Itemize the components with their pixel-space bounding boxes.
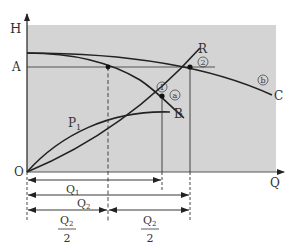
half-q2-left-denominator: 2 xyxy=(64,232,71,245)
y-axis-label: H xyxy=(10,21,21,36)
operating-point-2 xyxy=(187,64,192,69)
power-curve-end-label: B xyxy=(174,107,183,121)
half-q2-left-fraction: Q2 2 xyxy=(58,214,76,245)
operating-point-1 xyxy=(159,93,164,98)
x-axis-label: Q xyxy=(270,176,280,190)
half-q2-right-denominator: 2 xyxy=(147,232,154,245)
level-a-label: A xyxy=(11,60,21,74)
curve-b-mark: b xyxy=(260,76,265,85)
curve-a-mark: a xyxy=(173,91,178,100)
origin-label: O xyxy=(14,165,24,179)
plot-area xyxy=(27,25,276,172)
single-pump-operating-point xyxy=(106,65,111,70)
point-2-label: 2 xyxy=(200,58,205,67)
curve-c-label: C xyxy=(274,89,283,103)
half-q2-left-numerator: Q2 xyxy=(60,214,74,228)
half-q2-right-numerator: Q2 xyxy=(143,214,157,228)
pump-performance-diagram: H Q O A C b a R P1 B 1 2 Q1 Q2 Q2 2 Q2 2 xyxy=(0,0,295,250)
system-curve-label: R xyxy=(198,42,208,56)
half-q2-right-fraction: Q2 2 xyxy=(141,214,159,245)
point-1-label: 1 xyxy=(159,83,164,92)
q2-label: Q2 xyxy=(77,197,91,211)
